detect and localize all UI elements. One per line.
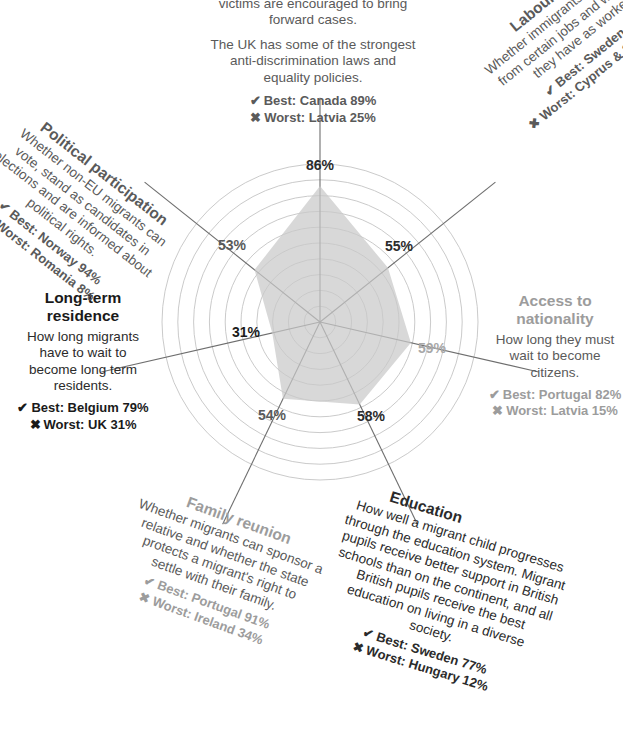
section-access-to-nationality: Access to nationality How long they must… — [481, 292, 623, 420]
radar-value-long-term: 31% — [232, 324, 260, 340]
nationality-worst-text: Worst: Latvia 15% — [506, 403, 618, 418]
nationality-best-line: ✔Best: Portugal 82% — [481, 387, 623, 404]
radar-data-polygon — [255, 186, 411, 404]
cross-icon: ✖ — [30, 418, 44, 432]
antidiscrimination-worst-text: Worst: Latvia 25% — [264, 110, 376, 125]
check-icon: ✔ — [17, 401, 31, 415]
antidiscrimination-best-line: ✔Best: Canada 89% — [183, 93, 443, 110]
long-term-desc-line2: have to wait to — [3, 345, 163, 361]
antidiscrimination-desc-line4: anti-discrimination laws and — [183, 53, 443, 69]
section-antidiscrimination: victims are encouraged to bring forward … — [183, 0, 443, 126]
radar-value-education: 58% — [357, 408, 385, 424]
nationality-worst-line: ✖Worst: Latvia 15% — [481, 403, 623, 420]
antidiscrimination-desc-line2: forward cases. — [183, 12, 443, 28]
radar-value-antidiscrimination: 86% — [306, 157, 334, 173]
check-icon: ✔ — [250, 94, 264, 108]
long-term-worst-text: Worst: UK 31% — [44, 417, 137, 432]
nationality-title-line2: nationality — [481, 310, 623, 328]
long-term-desc-line3: become long term — [3, 362, 163, 378]
long-term-desc-line4: residents. — [3, 378, 163, 394]
antidiscrimination-best-text: Best: Canada 89% — [264, 93, 377, 108]
long-term-best-text: Best: Belgium 79% — [31, 400, 148, 415]
nationality-desc-line2: wait to become — [481, 348, 623, 364]
radar-value-labour-market: 55% — [385, 238, 413, 254]
nationality-desc-line3: citizens. — [481, 365, 623, 381]
radar-infographic: 86% 55% 59% 58% 54% 31% 53% victims are … — [0, 0, 623, 743]
long-term-worst-line: ✖Worst: UK 31% — [3, 417, 163, 434]
nationality-desc-line1: How long they must — [481, 332, 623, 348]
radar-value-nationality: 59% — [418, 340, 446, 356]
long-term-best-line: ✔Best: Belgium 79% — [3, 400, 163, 417]
nationality-title-line1: Access to — [481, 292, 623, 310]
antidiscrimination-desc-line3: The UK has some of the strongest — [183, 37, 443, 53]
cross-icon: ✖ — [250, 111, 264, 125]
radar-value-family-reunion: 54% — [258, 407, 286, 423]
radar-value-political: 53% — [218, 237, 246, 253]
check-icon: ✔ — [489, 388, 503, 402]
antidiscrimination-desc-line1: victims are encouraged to bring — [183, 0, 443, 12]
antidiscrimination-desc-line5: equality policies. — [183, 70, 443, 86]
antidiscrimination-worst-line: ✖Worst: Latvia 25% — [183, 110, 443, 127]
nationality-best-text: Best: Portugal 82% — [503, 387, 621, 402]
cross-icon: ✖ — [492, 404, 506, 418]
long-term-desc-line1: How long migrants — [3, 329, 163, 345]
